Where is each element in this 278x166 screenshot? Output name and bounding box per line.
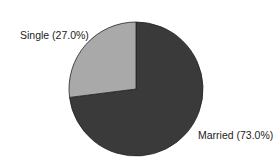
- label-married: Married (73.0%): [198, 129, 273, 141]
- pie-chart: [0, 0, 278, 166]
- label-single: Single (27.0%): [20, 29, 89, 41]
